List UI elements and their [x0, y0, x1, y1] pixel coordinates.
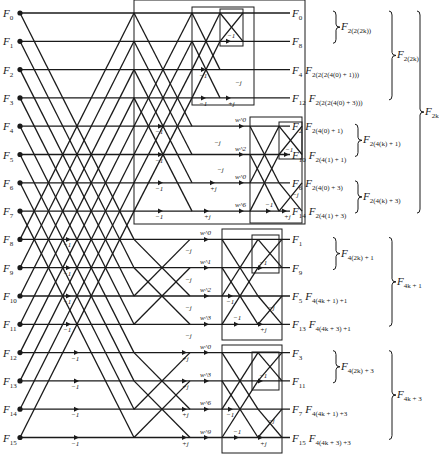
input-node [17, 180, 22, 185]
minus-one-label: −1 [71, 383, 79, 391]
input-label: F4 [2, 120, 14, 135]
twiddle-label: w^2 [235, 145, 247, 153]
group-label-sub: 2(2(2k)) [348, 27, 372, 35]
output-label-sub: 5 [299, 297, 303, 305]
group-label-sub: 2k [432, 112, 439, 120]
arrow-icon [239, 209, 244, 214]
output-expr-sub: 2(2(2(4(0) + 1))) [312, 71, 360, 79]
minus-one-label: −1 [226, 298, 234, 306]
input-node [17, 265, 22, 270]
input-label: F5 [2, 149, 14, 164]
input-label-sub: 8 [10, 240, 14, 248]
output-expr-sub: 2(2(2(4(0) + 3))) [315, 99, 363, 107]
output-expr-sub: 2(4(1) + 1) [315, 156, 346, 164]
stage-box-upper-quarter [192, 7, 254, 105]
minus-j-label: −j [268, 417, 275, 425]
arrow-icon [266, 209, 271, 214]
input-nodes [17, 10, 22, 440]
twiddle-label: w^0 [235, 116, 247, 124]
input-labels: F0F1F2F3F4F5F6F7F8F9F10F11F12F13F14F15 [2, 7, 17, 447]
twiddle-label: w^6 [235, 201, 247, 209]
minus-j-label: −j [214, 139, 221, 147]
minus-one-label: −1 [155, 213, 163, 221]
input-label: F6 [2, 177, 14, 192]
arrow-icon [204, 407, 209, 412]
group-brace [333, 11, 340, 43]
input-node [17, 124, 22, 129]
arrow-icon [204, 237, 209, 242]
group-label-sub: 4(2k) + 1 [348, 254, 375, 262]
group-label: F4k + 3 [396, 388, 422, 403]
plus-j-label: +j [182, 383, 189, 391]
input-node [17, 435, 22, 440]
minus-one-label: −1 [233, 314, 241, 322]
minus-one-label: −1 [155, 157, 163, 165]
output-label: F1 [291, 233, 303, 248]
output-expr-sub: 4(4k + 3) +1 [315, 325, 351, 333]
group-label: F4k + 1 [396, 275, 422, 290]
twiddle-label: w^2 [200, 286, 212, 294]
input-label: F15 [2, 432, 17, 447]
output-label-sub: 6 [299, 184, 303, 192]
output-expr-sub: 2(4(1) + 3) [315, 212, 346, 220]
minus-j-label: −j [235, 79, 242, 87]
minus-j-label: −j [292, 191, 299, 199]
group-brace [333, 237, 340, 269]
group-brace [333, 351, 340, 383]
minus-one-label: −1 [227, 32, 235, 40]
output-label: F6F2(4(0) + 3) [291, 177, 343, 192]
group-brace [389, 237, 396, 326]
output-label-sub: 10 [299, 156, 307, 164]
group-brace [355, 181, 362, 213]
minus-one-label: −1 [199, 100, 207, 108]
group-label-sub: 2(4(k) + 1) [370, 140, 401, 148]
arrow-icon [204, 350, 209, 355]
minus-j-label: −j [268, 304, 275, 312]
plus-j-label: +j [182, 440, 189, 448]
output-label-sub: 8 [299, 42, 303, 50]
minus-one-label: −1 [259, 259, 267, 267]
input-label-sub: 12 [10, 354, 18, 362]
output-expr-sub: 4(4k + 3) +3 [315, 439, 351, 447]
input-label: F3 [2, 92, 14, 107]
fft-flow-graph: −1−1−1−1−1−1−1−1−1−1−1−1−1−1−j−j+j+j−j+j… [0, 0, 439, 457]
twiddle-label: w^0 [200, 343, 212, 351]
input-label-sub: 15 [10, 439, 18, 447]
input-label: F1 [2, 35, 14, 50]
plus-j-label: +j [182, 355, 189, 363]
group-label-sub: 4k + 3 [404, 395, 422, 403]
plus-j-label: +j [284, 213, 291, 221]
arrow-icon [204, 435, 209, 440]
minus-j-label: −j [185, 247, 192, 255]
output-label-sub: 4 [299, 71, 303, 79]
minus-one-label: −1 [71, 440, 79, 448]
group-brace [389, 351, 396, 440]
output-label-sub: 14 [299, 212, 307, 220]
output-label: F9 [291, 262, 303, 277]
group-label: F4(2k) + 1 [340, 247, 374, 262]
input-label-sub: 6 [10, 184, 14, 192]
twiddle-label: w^0 [235, 173, 247, 181]
group-label: F4(2k) + 3 [340, 360, 374, 375]
group-brace [355, 124, 362, 156]
minus-one-label: −1 [226, 411, 234, 419]
output-label-sub: 7 [299, 410, 303, 418]
input-node [17, 378, 22, 383]
input-label-sub: 3 [10, 99, 14, 107]
minus-j-label: −j [185, 276, 192, 284]
arrow-icon [204, 378, 209, 383]
input-label: F8 [2, 233, 14, 248]
minus-one-label: −1 [63, 326, 71, 334]
minus-j-label: −j [217, 166, 224, 174]
arrow-icon [239, 180, 244, 185]
group-label: F2(2(2k)) [340, 20, 372, 35]
arrow-icon [204, 294, 209, 299]
output-expr-sub: 2(4(0) + 3) [312, 184, 343, 192]
input-label-sub: 11 [10, 325, 17, 333]
input-label-sub: 4 [10, 127, 14, 135]
output-expr-sub: 2(4(0) + 1) [312, 127, 343, 135]
input-label: F0 [2, 7, 14, 22]
input-label: F9 [2, 262, 14, 277]
minus-one-label: −1 [71, 355, 79, 363]
output-label-sub: 9 [299, 269, 303, 277]
